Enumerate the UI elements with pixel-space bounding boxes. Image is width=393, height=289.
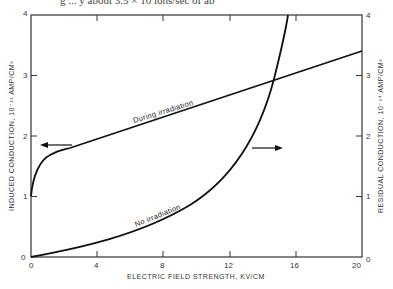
y-ticks [31,76,362,197]
left-y-axis-title: INDUCED CONDUCTION, 10⁻¹² AMP/CM² [8,61,15,211]
svg-text:1: 1 [23,192,28,201]
chart: 0 4 8 12 16 20 0 1 2 3 4 0 1 2 3 4 ELECT… [0,0,393,289]
curve-no-irradiation [31,15,288,257]
svg-text:4: 4 [94,261,99,270]
svg-text:2: 2 [23,132,28,141]
svg-text:16: 16 [290,261,299,270]
right-y-axis-title: RESIDUAL CONDUCTION, 10⁻¹⁴ AMP/CM² [377,59,384,213]
svg-text:4: 4 [366,11,371,20]
svg-text:2: 2 [366,132,371,141]
svg-text:0: 0 [21,253,26,262]
svg-text:3: 3 [366,71,371,80]
x-ticks [97,15,296,257]
y-tick-labels-left: 0 1 2 3 4 [21,9,28,262]
svg-text:8: 8 [160,261,165,270]
arrow-right-icon [252,145,283,151]
label-during-irradiation: During irradiation [132,98,194,125]
svg-text:0: 0 [29,261,34,270]
x-axis-title: ELECTRIC FIELD STRENGTH, KV/CM [127,273,265,280]
plot-frame [31,15,362,257]
svg-text:0: 0 [366,255,371,264]
svg-text:4: 4 [23,9,28,18]
x-tick-labels: 0 4 8 12 16 20 [29,261,361,270]
arrow-left-icon [40,142,72,148]
y-tick-labels-right: 0 1 2 3 4 [366,11,371,264]
svg-text:12: 12 [224,261,233,270]
curve-during-irradiation [31,51,362,196]
label-no-irradiation: No irradiation [133,202,182,229]
svg-text:20: 20 [352,261,361,270]
svg-text:1: 1 [366,192,371,201]
svg-text:3: 3 [23,71,28,80]
